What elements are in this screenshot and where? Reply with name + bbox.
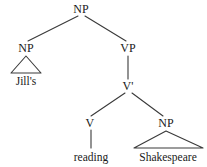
tree-terminal-shakespeare: Shakespeare	[139, 151, 196, 163]
tree-edge-root-to-vp	[85, 16, 126, 41]
syntax-tree-figure: NPNPVPV'VNP Jill'sreadingShakespeare	[0, 0, 207, 167]
tree-edge-vbar-to-v	[91, 93, 125, 116]
tree-node-np-object: NP	[158, 117, 174, 129]
triangle-group	[11, 56, 203, 148]
tree-node-np-subject: NP	[18, 42, 34, 54]
tree-node-np-root: NP	[73, 3, 89, 15]
phrase-triangle-subject-triangle	[11, 56, 41, 73]
tree-node-v: V	[86, 117, 95, 129]
tree-terminal-reading: reading	[74, 151, 108, 163]
tree-node-vbar: V'	[122, 80, 133, 92]
tree-edge-root-to-subject	[28, 16, 78, 41]
tree-terminal-jills: Jill's	[16, 75, 37, 87]
tree-edge-vbar-to-np	[132, 93, 163, 116]
tree-node-vp: VP	[120, 42, 136, 54]
phrase-triangle-object-triangle	[134, 131, 203, 148]
edge-group	[28, 16, 163, 148]
